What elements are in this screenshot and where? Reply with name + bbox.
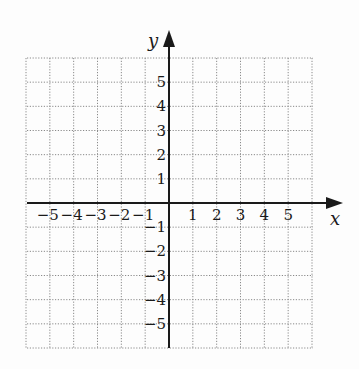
x-tick-label: −4 [61, 206, 83, 224]
y-tick-label: 2 [156, 146, 166, 164]
x-tick-label: −2 [108, 206, 130, 224]
y-tick-label: 4 [156, 97, 166, 115]
x-tick-label: 4 [260, 206, 270, 224]
y-tick-label: −3 [144, 267, 166, 285]
axes [27, 30, 343, 348]
y-axis-label: y [147, 30, 159, 51]
y-tick-label: 1 [156, 170, 166, 188]
coordinate-plane: −5−4−3−2−11234554321−1−2−3−4−5 x y [0, 0, 359, 369]
y-tick-label: −5 [144, 315, 166, 333]
y-tick-label: 3 [156, 122, 166, 140]
x-axis-label: x [330, 208, 340, 229]
x-tick-label: 1 [188, 206, 198, 224]
x-tick-label: −5 [37, 206, 59, 224]
y-tick-label: −1 [144, 218, 166, 236]
x-tick-label: −3 [84, 206, 106, 224]
x-tick-label: 2 [212, 206, 222, 224]
y-tick-label: −4 [144, 291, 166, 309]
x-tick-label: 3 [236, 206, 246, 224]
y-tick-label: −2 [144, 242, 166, 260]
x-tick-label: 5 [283, 206, 293, 224]
y-axis-arrow-icon [163, 30, 175, 47]
y-tick-label: 5 [156, 73, 166, 91]
